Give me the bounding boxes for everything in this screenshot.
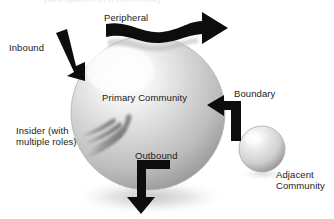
label-peripheral: Peripheral: [104, 12, 148, 23]
label-insider: Insider (with multiple roles): [16, 125, 77, 147]
adjacent-sphere-highlight: [245, 133, 263, 145]
label-primary-community: Primary Community: [102, 92, 187, 103]
primary-sphere-highlight: [86, 46, 154, 94]
adjacent-community-sphere[interactable]: [239, 126, 285, 172]
label-outbound: Outbound: [135, 150, 178, 161]
diagram-canvas: participation in a community: [0, 0, 334, 219]
label-adjacent-community: Adjacent Community: [276, 169, 325, 191]
label-boundary: Boundary: [234, 88, 275, 99]
label-inbound: Inbound: [9, 42, 44, 53]
inbound-arrow[interactable]: [56, 29, 85, 81]
